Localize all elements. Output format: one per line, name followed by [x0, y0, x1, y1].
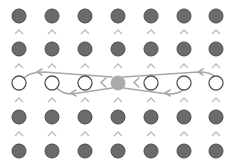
up-chevron-icon: [48, 30, 56, 34]
filled-node: [209, 9, 223, 23]
hollow-node: [78, 76, 92, 90]
up-chevron-icon: [15, 64, 23, 68]
filled-node: [12, 144, 26, 158]
up-chevron-icon: [81, 30, 89, 34]
up-chevron-icon: [212, 132, 220, 136]
filled-node: [78, 9, 92, 23]
filled-node: [111, 144, 125, 158]
filled-node: [45, 42, 59, 56]
up-chevron-icon: [81, 64, 89, 68]
up-chevron-icon: [147, 98, 155, 102]
hollow-node: [12, 76, 26, 90]
hollow-node: [45, 76, 59, 90]
up-chevron-icon: [15, 30, 23, 34]
up-chevron-icon: [180, 98, 188, 102]
up-chevron-icon: [180, 30, 188, 34]
hollow-node: [209, 76, 223, 90]
up-chevron-icon: [15, 132, 23, 136]
center-left-chevron-icon: [101, 78, 106, 87]
filled-node: [177, 9, 191, 23]
filled-node: [111, 9, 125, 23]
hollow-node: [144, 76, 158, 90]
up-chevron-icon: [147, 132, 155, 136]
up-chevron-icon: [114, 98, 122, 102]
up-chevron-icon: [180, 132, 188, 136]
center-node: [111, 76, 125, 90]
filled-node: [12, 9, 26, 23]
filled-node: [144, 42, 158, 56]
up-chevron-icon: [81, 132, 89, 136]
filled-node: [45, 144, 59, 158]
lower-right-arrow-icon: [165, 90, 170, 96]
filled-node: [177, 144, 191, 158]
up-chevron-icon: [48, 132, 56, 136]
up-chevron-icon: [114, 64, 122, 68]
filled-node: [78, 42, 92, 56]
up-chevron-icon: [147, 30, 155, 34]
filled-node: [209, 42, 223, 56]
up-chevron-icon: [147, 64, 155, 68]
filled-node: [209, 144, 223, 158]
up-chevron-icon: [180, 64, 188, 68]
filled-node: [144, 9, 158, 23]
filled-node: [45, 9, 59, 23]
filled-node: [78, 110, 92, 124]
filled-node: [12, 42, 26, 56]
center-right-chevron-icon: [134, 78, 139, 87]
up-chevron-icon: [81, 98, 89, 102]
up-chevron-icon: [114, 132, 122, 136]
hollow-node: [177, 76, 191, 90]
filled-node: [12, 110, 26, 124]
filled-node: [144, 144, 158, 158]
filled-node: [177, 42, 191, 56]
up-chevron-icon: [48, 64, 56, 68]
filled-node: [111, 42, 125, 56]
filled-node: [45, 110, 59, 124]
up-chevron-icon: [212, 98, 220, 102]
up-chevron-icon: [48, 98, 56, 102]
filled-node: [111, 110, 125, 124]
filled-node: [144, 110, 158, 124]
up-chevron-icon: [15, 98, 23, 102]
filled-node: [78, 144, 92, 158]
lattice-diagram: [0, 0, 235, 167]
up-chevron-icon: [114, 30, 122, 34]
up-chevron-icon: [212, 64, 220, 68]
filled-node: [177, 110, 191, 124]
up-chevron-icon: [212, 30, 220, 34]
filled-node: [209, 110, 223, 124]
